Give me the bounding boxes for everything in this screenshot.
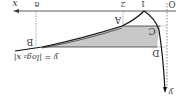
- shaded-region: [42, 26, 160, 47]
- tick-label-2: 2: [120, 0, 125, 9]
- svg-text:O: O: [168, 0, 175, 9]
- function-label: y = |log₂ x|: [14, 53, 59, 62]
- svg-text:C: C: [148, 26, 155, 36]
- svg-text:x: x: [12, 0, 17, 9]
- svg-text:8: 8: [34, 0, 39, 9]
- svg-text:y: y: [168, 88, 174, 97]
- label-y: y: [168, 88, 174, 97]
- point-label-c: C: [148, 26, 155, 36]
- point-label-d: D: [152, 48, 159, 58]
- svg-text:1: 1: [140, 0, 145, 8]
- tick-label-1: 1: [140, 0, 145, 8]
- point-label-b: B: [26, 37, 33, 47]
- label-x: x: [12, 0, 17, 9]
- svg-text:B: B: [26, 37, 33, 47]
- y-axis-arrow-icon: [163, 87, 167, 93]
- svg-text:A: A: [114, 15, 122, 25]
- log-abs-diagram: x O 1 2 8 A B C D y y = |log₂ x|: [0, 0, 185, 103]
- point-label-a: A: [114, 15, 122, 25]
- svg-text:y = |log₂ x|: y = |log₂ x|: [14, 53, 59, 62]
- svg-text:D: D: [152, 48, 159, 58]
- svg-text:2: 2: [120, 0, 125, 9]
- tick-label-8: 8: [34, 0, 39, 9]
- label-origin: O: [168, 0, 175, 9]
